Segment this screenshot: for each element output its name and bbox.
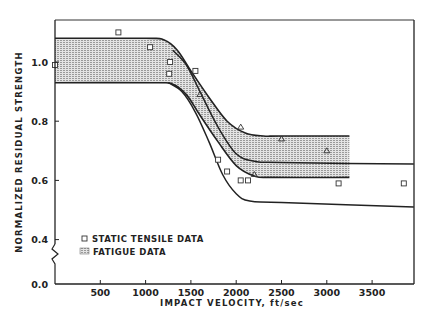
y-axis-break-icon	[52, 244, 58, 284]
static-data-point	[167, 71, 172, 76]
x-axis-title: IMPACT VELOCITY, ft/sec	[160, 298, 304, 308]
static-data-point	[216, 157, 221, 162]
x-tick-label: 3500	[359, 287, 386, 298]
legend-fatigue-label: FATIGUE DATA	[93, 247, 166, 257]
y-tick-label: 0.6	[31, 175, 48, 186]
x-tick-label: 3000	[314, 287, 341, 298]
static-data-point	[148, 45, 153, 50]
legend-static-marker-icon	[82, 236, 87, 241]
chart-canvas: 500100015002000250030003500 0.00.40.60.8…	[0, 0, 431, 326]
y-axis-title: NORMALIZED RESIDUAL STRENGTH	[14, 51, 24, 253]
x-tick-label: 2000	[223, 287, 250, 298]
legend-static-label: STATIC TENSILE DATA	[92, 234, 204, 244]
static-data-point	[168, 60, 173, 65]
fatigue-data-band	[55, 38, 349, 177]
x-tick-label: 2500	[268, 287, 295, 298]
static-data-point	[193, 68, 198, 73]
x-tick-label: 1000	[132, 287, 159, 298]
y-tick-label: 0.4	[31, 234, 48, 245]
static-data-point	[225, 169, 230, 174]
static-data-point	[246, 178, 251, 183]
legend-fatigue-swatch-icon	[80, 248, 89, 254]
static-data-point	[116, 30, 121, 35]
static-data-point	[401, 181, 406, 186]
y-tick-label: 0.0	[31, 279, 48, 290]
fatigue-data-point	[238, 124, 244, 129]
static-data-point	[336, 181, 341, 186]
y-tick-label: 1.0	[31, 57, 48, 68]
static-data-point	[238, 178, 243, 183]
y-tick-label: 0.8	[31, 116, 48, 127]
x-ticks: 500100015002000250030003500	[90, 280, 385, 298]
legend: STATIC TENSILE DATA FATIGUE DATA	[80, 234, 204, 257]
x-tick-label: 500	[90, 287, 110, 298]
x-tick-label: 1500	[178, 287, 205, 298]
